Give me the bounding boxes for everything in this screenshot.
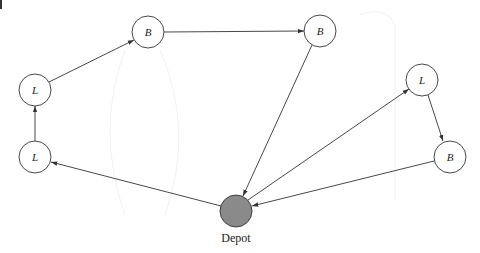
node-label: L xyxy=(418,74,425,86)
edges xyxy=(35,31,443,206)
node-label: B xyxy=(317,25,324,37)
edge-depot-to-L3 xyxy=(248,89,409,200)
depot-node: Depot xyxy=(220,195,252,245)
routing-diagram: L L B B L B Depot xyxy=(0,0,480,253)
node-label: B xyxy=(447,151,454,163)
node-label: B xyxy=(145,26,152,38)
node-B2: B xyxy=(304,15,336,47)
edge-B3-to-depot xyxy=(252,161,434,206)
edge-L3-to-B3 xyxy=(428,95,443,141)
node-L3: L xyxy=(406,64,438,96)
corner-mark xyxy=(0,0,2,9)
node-L1: L xyxy=(19,141,51,173)
node-label: L xyxy=(31,151,38,163)
node-B3: B xyxy=(434,141,466,173)
node-label: L xyxy=(31,84,38,96)
edge-B2-to-depot xyxy=(243,45,312,196)
depot-label: Depot xyxy=(221,231,251,245)
node-B1: B xyxy=(132,16,164,48)
node-L2: L xyxy=(19,74,51,106)
edge-B1-to-B2 xyxy=(164,31,304,32)
edge-depot-to-L1 xyxy=(51,162,221,206)
